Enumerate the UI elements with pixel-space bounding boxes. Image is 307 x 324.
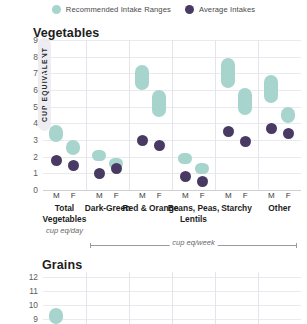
category-separator	[258, 272, 259, 324]
average-marker	[283, 128, 294, 139]
average-marker	[240, 136, 251, 147]
grains-plot	[43, 272, 301, 324]
legend-item-average-intakes: Average Intakes	[185, 5, 255, 14]
x-axis-sex-label: M	[139, 191, 146, 200]
average-marker	[197, 176, 208, 187]
category-separator	[86, 40, 87, 190]
range-marker	[66, 140, 80, 155]
average-marker	[94, 168, 105, 179]
unit-label-week: cup eq/week	[169, 238, 218, 247]
range-marker	[238, 88, 252, 115]
y-axis-tick-label: 9	[14, 35, 38, 45]
y-axis-tick-label: 1	[14, 168, 38, 178]
y-axis-tick-label: 11	[14, 286, 38, 296]
range-marker	[92, 150, 106, 161]
x-axis-sex-label: F	[286, 191, 291, 200]
range-marker	[49, 125, 63, 142]
range-marker	[152, 90, 166, 117]
average-marker	[111, 163, 122, 174]
unit-label-day: cup eq/day	[46, 226, 83, 235]
y-axis-tick-label: 6	[14, 85, 38, 95]
x-axis-sex-label: F	[71, 191, 76, 200]
range-marker	[135, 65, 149, 90]
grains-y-axis-ticks: 9101112	[14, 272, 38, 324]
chart-legend: Recommended Intake Ranges Average Intake…	[0, 0, 307, 18]
average-marker	[180, 171, 191, 182]
y-axis-tick-label: 0	[14, 185, 38, 195]
x-axis-sex-label: F	[114, 191, 119, 200]
range-marker	[49, 308, 63, 324]
legend-item-recommended-ranges: Recommended Intake Ranges	[52, 5, 171, 14]
filled-circle-icon	[52, 5, 61, 14]
y-axis-tick-label: 2	[14, 152, 38, 162]
y-axis-tick-label: 7	[14, 68, 38, 78]
filled-circle-icon	[185, 5, 194, 14]
range-marker	[264, 75, 278, 103]
y-axis-tick-label: 5	[14, 102, 38, 112]
x-axis-category-label: Other	[251, 203, 307, 214]
y-axis-tick-label: 3	[14, 135, 38, 145]
average-marker	[137, 135, 148, 146]
vegetables-plot	[43, 40, 301, 190]
range-marker	[195, 163, 209, 174]
category-separator	[86, 272, 87, 324]
x-axis-labels: MFTotal VegetablesMFDark-GreenMFRed & Or…	[43, 190, 301, 252]
category-separator	[172, 272, 173, 324]
average-marker	[266, 123, 277, 134]
x-axis-sex-label: M	[53, 191, 60, 200]
y-axis-tick-label: 10	[14, 300, 38, 310]
range-marker	[281, 107, 295, 124]
average-marker	[223, 126, 234, 137]
average-marker	[68, 160, 79, 171]
average-marker	[51, 155, 62, 166]
average-marker	[154, 140, 165, 151]
y-axis-tick-label: 8	[14, 52, 38, 62]
range-marker	[221, 58, 235, 88]
category-separator	[215, 272, 216, 324]
x-axis-sex-label: F	[157, 191, 162, 200]
category-separator	[129, 272, 130, 324]
category-separator	[215, 40, 216, 190]
category-separator	[129, 40, 130, 190]
category-separator	[172, 40, 173, 190]
x-axis-sex-label: F	[200, 191, 205, 200]
range-marker	[178, 153, 192, 164]
x-axis-sex-label: M	[225, 191, 232, 200]
x-axis-sex-label: M	[268, 191, 275, 200]
x-axis-sex-label: F	[243, 191, 248, 200]
y-axis-tick-label: 9	[14, 314, 38, 324]
category-separator	[258, 40, 259, 190]
x-axis-sex-label: M	[96, 191, 103, 200]
y-axis-tick-label: 4	[14, 118, 38, 128]
x-axis-sex-label: M	[182, 191, 189, 200]
legend-label-recommended-ranges: Recommended Intake Ranges	[66, 5, 171, 14]
page-title-grains: Grains	[42, 258, 82, 272]
legend-label-average-intakes: Average Intakes	[199, 5, 255, 14]
y-axis-tick-label: 12	[14, 272, 38, 282]
y-axis-ticks: 0123456789	[14, 40, 38, 190]
